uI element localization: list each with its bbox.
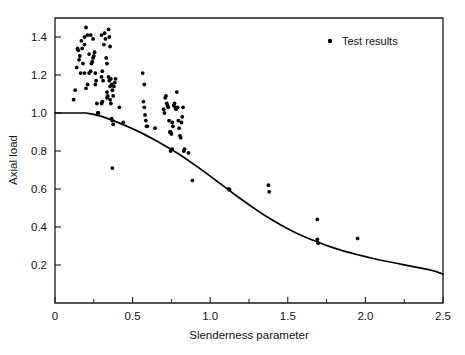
data-point — [142, 83, 146, 87]
y-tick-label: 0.2 — [31, 259, 47, 271]
data-point — [84, 26, 88, 30]
data-point — [180, 121, 184, 125]
data-point — [81, 62, 85, 66]
data-point — [171, 124, 175, 128]
chart-figure: 00.51.01.52.02.5 0.20.40.60.81.01.21.4 T… — [0, 0, 465, 355]
data-point — [77, 58, 81, 62]
data-point — [79, 71, 83, 75]
data-point — [267, 183, 271, 187]
data-point — [105, 62, 109, 66]
data-point — [142, 100, 146, 104]
data-point — [118, 105, 122, 109]
data-point — [164, 94, 168, 98]
data-point — [177, 126, 181, 130]
data-point — [190, 179, 194, 183]
data-point — [176, 105, 180, 109]
data-point — [90, 60, 94, 64]
data-point — [80, 47, 84, 51]
data-point — [86, 83, 90, 87]
data-point — [100, 75, 104, 79]
x-tick-label: 2.0 — [357, 310, 373, 322]
y-tick-label: 0.6 — [31, 183, 47, 195]
data-point — [142, 105, 146, 109]
data-point — [89, 69, 93, 73]
data-point — [175, 90, 179, 94]
data-point — [141, 71, 145, 75]
data-point — [89, 33, 93, 37]
data-point — [173, 102, 177, 106]
data-point — [144, 119, 148, 123]
x-tick-label: 0 — [52, 310, 58, 322]
data-point — [180, 115, 184, 119]
data-point — [109, 102, 113, 106]
data-point — [97, 111, 101, 115]
data-point — [100, 33, 104, 37]
data-point — [113, 81, 117, 85]
data-point — [228, 188, 232, 192]
data-point — [162, 107, 166, 111]
data-point — [104, 56, 108, 60]
data-point — [93, 50, 97, 54]
data-point — [153, 126, 157, 130]
chart-background — [0, 0, 465, 355]
y-tick-label: 0.4 — [31, 221, 48, 233]
data-point — [170, 121, 174, 125]
data-point — [107, 35, 111, 39]
data-point — [95, 102, 99, 106]
data-point — [92, 54, 96, 58]
data-point — [73, 88, 77, 92]
data-point — [121, 121, 125, 125]
x-tick-label: 1.5 — [280, 310, 296, 322]
x-tick-label: 2.5 — [435, 310, 451, 322]
data-point — [187, 151, 191, 155]
data-point — [100, 100, 104, 104]
data-point — [143, 113, 147, 117]
data-point — [111, 119, 115, 123]
data-point — [183, 147, 187, 151]
data-point — [111, 88, 115, 92]
data-point — [84, 86, 88, 90]
y-tick-label: 0.8 — [31, 145, 47, 157]
y-tick-label: 1.2 — [31, 69, 47, 81]
data-point — [83, 35, 87, 39]
data-point — [109, 77, 113, 81]
data-point — [83, 71, 87, 75]
data-point — [179, 136, 183, 140]
scatter-chart: 00.51.01.52.02.5 0.20.40.60.81.01.21.4 T… — [0, 0, 465, 355]
data-point — [315, 237, 319, 241]
data-point — [108, 45, 112, 49]
data-point — [356, 237, 360, 241]
data-point — [75, 66, 79, 70]
data-point — [163, 111, 167, 115]
data-point — [145, 124, 149, 128]
data-point — [166, 105, 170, 109]
data-point — [316, 241, 320, 245]
data-point — [170, 132, 174, 136]
x-tick-label: 0.5 — [125, 310, 141, 322]
y-tick-label: 1.4 — [31, 31, 48, 43]
data-point — [72, 98, 76, 102]
y-tick-label: 1.0 — [31, 107, 47, 119]
data-point — [101, 79, 105, 83]
legend-label: Test results — [342, 35, 398, 47]
data-point — [315, 218, 319, 222]
data-point — [102, 43, 106, 47]
data-point — [91, 37, 95, 41]
data-point — [79, 39, 83, 43]
data-point — [83, 43, 87, 47]
data-point — [105, 96, 109, 100]
data-point — [181, 105, 185, 109]
data-point — [93, 71, 97, 75]
data-point — [112, 85, 116, 89]
data-point — [111, 123, 115, 127]
data-point — [78, 54, 82, 58]
data-point — [111, 166, 115, 170]
x-tick-label: 1.0 — [202, 310, 218, 322]
data-point — [93, 83, 97, 87]
data-point — [111, 94, 115, 98]
data-point — [105, 90, 109, 94]
legend-dot-icon — [328, 39, 332, 43]
data-point — [114, 77, 118, 81]
y-axis-title: Axial load — [7, 135, 19, 185]
data-point — [87, 52, 91, 56]
